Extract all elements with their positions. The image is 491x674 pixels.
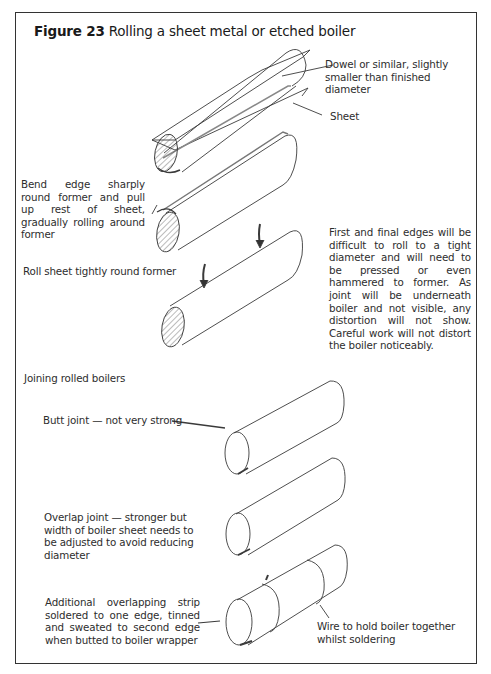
overlap-joint-drawing bbox=[226, 458, 345, 555]
roll-tightly-drawing bbox=[159, 224, 303, 349]
butt-joint-drawing bbox=[172, 381, 344, 474]
edges-note: First and final edges will be difficult … bbox=[329, 226, 471, 352]
sheet-label: Sheet bbox=[330, 110, 359, 123]
dowel-label: Dowel or similar, slightly smaller than … bbox=[325, 58, 475, 96]
dowel-on-sheet-drawing bbox=[151, 49, 333, 173]
joining-heading: Joining rolled boilers bbox=[24, 372, 125, 385]
bend-edge-label: Bend edge sharply round former and pull … bbox=[21, 178, 145, 241]
wire-label: Wire to hold boiler together whilst sold… bbox=[317, 620, 477, 645]
overlap-joint-label: Overlap joint — stronger but width of bo… bbox=[44, 511, 204, 561]
butt-joint-label: Butt joint — not very strong bbox=[43, 414, 182, 427]
strip-joint-label: Additional overlapping strip soldered to… bbox=[45, 596, 200, 646]
roll-tightly-label: Roll sheet tightly round former bbox=[23, 265, 176, 278]
